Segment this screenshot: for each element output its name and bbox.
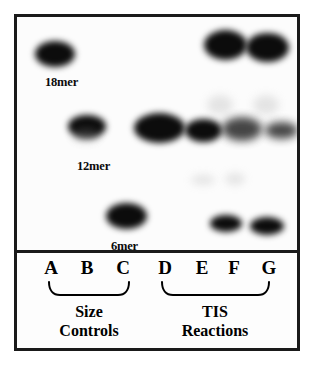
group-label-line2: Reactions [145,322,285,340]
lane-legend-panel: ABCDEFG SizeControlsTISReactions [17,253,297,348]
gel-band-f-18mer [204,30,247,60]
gel-figure: 18mer12mer6mer ABCDEFG SizeControlsTISRe… [0,0,314,366]
gel-band-a-18mer [35,41,75,67]
size-marker-label-12mer: 12mer [77,159,110,174]
gel-band-f-6mer [210,215,242,232]
group-label-tis-reactions: TISReactions [145,303,285,340]
gel-panel: 18mer12mer6mer [17,17,297,250]
lane-letter-g: G [259,257,279,279]
lane-letter-c: C [113,257,133,279]
gel-band-f-12mer [222,117,262,141]
gel-band-f-smear [207,95,233,115]
gel-band-d-12mer [134,113,185,143]
gel-band-g-6mer [250,217,284,235]
lane-letter-a: A [41,257,61,279]
gel-band-b-12mer [73,129,99,141]
group-label-line1: TIS [202,303,228,320]
group-bracket-size-controls [45,281,133,303]
size-marker-label-18mer: 18mer [45,75,78,90]
group-label-size-controls: SizeControls [19,303,159,340]
lane-letter-d: D [155,257,175,279]
gel-band-g-12mer [265,122,297,139]
gel-band-g-smear [253,95,279,115]
group-label-line1: Size [75,303,103,320]
gel-band-g-smear2 [225,173,245,185]
gel-band-f-smear2 [191,175,215,185]
gel-band-e-12mer [185,119,222,142]
figure-frame: 18mer12mer6mer ABCDEFG SizeControlsTISRe… [14,14,300,351]
gel-band-c-6mer [106,203,147,229]
gel-band-g-18mer [246,33,289,62]
lane-letter-b: B [77,257,97,279]
group-label-line2: Controls [19,322,159,340]
lane-letter-e: E [192,257,212,279]
lane-letter-f: F [224,257,244,279]
size-marker-label-6mer: 6mer [111,239,138,250]
group-bracket-tis-reactions [158,281,273,303]
